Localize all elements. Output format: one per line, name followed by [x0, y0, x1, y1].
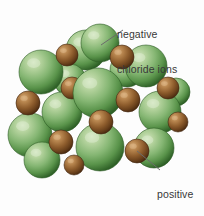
chloride-label-line-2: chloride ions — [117, 64, 177, 76]
sphere-highlight — [82, 78, 97, 89]
sphere-highlight — [88, 31, 99, 39]
sphere-highlight — [68, 159, 74, 163]
sphere-highlight — [49, 100, 61, 109]
sphere-highlight — [20, 96, 27, 101]
sphere-highlight — [16, 121, 29, 131]
sphere-highlight — [129, 144, 136, 149]
label-negative-chloride-ions: negative chloride ions — [117, 6, 177, 99]
sphere-highlight — [27, 58, 40, 68]
sphere-highlight — [172, 116, 178, 120]
sodium-ion-sphere — [64, 155, 84, 175]
sphere-highlight — [65, 81, 72, 86]
sphere-highlight — [31, 149, 42, 157]
label-positive-sodium-ions: positive sodium ions — [157, 166, 193, 216]
sodium-label-line-1: positive — [157, 189, 193, 201]
sphere-highlight — [93, 115, 100, 120]
sphere-highlight — [147, 99, 160, 108]
sodium-ion-sphere — [89, 110, 113, 134]
chloride-label-line-1: negative — [117, 29, 177, 41]
sodium-ion-sphere — [56, 44, 78, 66]
sphere-highlight — [60, 48, 67, 53]
sodium-ion-sphere — [16, 91, 40, 115]
sphere-highlight — [53, 135, 60, 140]
sphere-highlight — [85, 132, 99, 143]
sodium-ion-sphere — [49, 130, 73, 154]
lattice-figure: negative chloride ions positive sodium i… — [0, 0, 204, 216]
sodium-ion-sphere — [168, 112, 188, 132]
